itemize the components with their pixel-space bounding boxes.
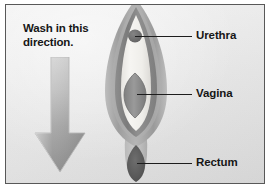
- wash-direction-line-2: direction.: [23, 36, 109, 50]
- leader-line-vagina: [137, 94, 192, 95]
- down-arrow-icon: [34, 57, 86, 175]
- label-rectum: Rectum: [196, 156, 238, 168]
- label-vagina: Vagina: [196, 87, 232, 99]
- leader-line-rectum: [137, 163, 192, 164]
- label-urethra: Urethra: [196, 29, 236, 41]
- wash-direction-line-1: Wash in this: [23, 22, 109, 36]
- diagram-frame: Wash in this direction.: [5, 4, 265, 184]
- figure-root: Wash in this direction.: [0, 0, 271, 190]
- wash-direction-text: Wash in this direction.: [23, 22, 109, 49]
- leader-line-urethra: [135, 36, 192, 37]
